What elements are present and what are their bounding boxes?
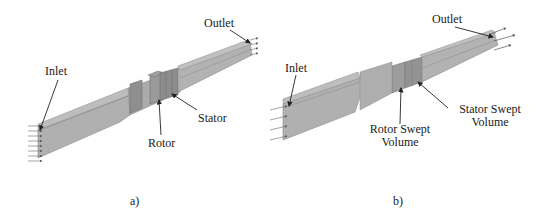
panel-a-inlet-label: Inlet	[45, 65, 67, 78]
panel-b-stator-swept-volume-label: Stator Swept Volume	[438, 103, 542, 129]
panel-a-stator-label: Stator	[198, 112, 227, 125]
panel-a-outlet-label: Outlet	[204, 17, 234, 30]
panel-a-duct	[38, 40, 252, 158]
panel-b-caption: b)	[393, 195, 403, 208]
panel-b-rotor-label-line2: Volume	[345, 136, 455, 149]
panel-b-inlet-label: Inlet	[285, 62, 307, 75]
panel-a-caption: a)	[130, 195, 139, 208]
panel-a-rotor-label: Rotor	[148, 137, 175, 150]
panel-b-stator-label-line2: Volume	[438, 116, 542, 129]
panel-b-outlet-label: Outlet	[432, 13, 462, 26]
